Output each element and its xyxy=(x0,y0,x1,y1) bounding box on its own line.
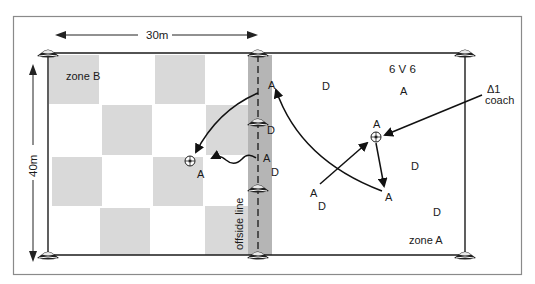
height-label: 40m xyxy=(27,155,39,177)
attacker-label: A xyxy=(385,191,393,203)
ball-icon xyxy=(185,156,195,166)
offside-line-label: offside line xyxy=(233,198,245,250)
drill-diagram: offside line 30m 40m zone B zone A 6 V 6… xyxy=(0,0,535,284)
attacker-label: A xyxy=(400,85,408,97)
zone-b-label: zone B xyxy=(66,70,100,82)
attacker-label: A xyxy=(268,79,276,91)
defender-label: D xyxy=(271,166,279,178)
defender-label: D xyxy=(433,206,441,218)
attacker-label: A xyxy=(197,168,205,180)
defender-label: D xyxy=(267,124,275,136)
coach-label: coach xyxy=(485,94,514,106)
defender-label: D xyxy=(318,200,326,212)
defender-label: D xyxy=(411,160,419,172)
width-label: 30m xyxy=(146,29,168,41)
ball-icon xyxy=(371,132,381,142)
attacker-label: A xyxy=(310,187,318,199)
attacker-label: A xyxy=(373,118,381,130)
game-format-label: 6 V 6 xyxy=(389,63,416,75)
attacker-label: A xyxy=(263,152,271,164)
zone-a-label: zone A xyxy=(409,234,443,246)
defender-label: D xyxy=(322,80,330,92)
